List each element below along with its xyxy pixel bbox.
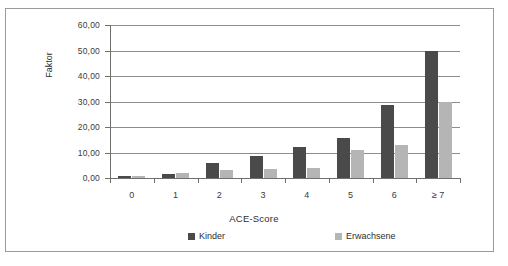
y-axis-tick xyxy=(105,178,111,179)
bar-erwachsene-3 xyxy=(264,169,277,178)
x-axis-tick-label: 5 xyxy=(331,190,371,200)
x-axis-tick xyxy=(285,178,286,183)
bar-erwachsene-2 xyxy=(220,170,233,178)
bar-kinder-3 xyxy=(250,156,263,178)
y-axis-tick-label: 0,00 xyxy=(52,173,100,183)
bar-erwachsene-7 xyxy=(439,102,452,179)
bar-kinder-4 xyxy=(293,147,306,178)
x-axis-tick xyxy=(373,178,374,183)
legend-label: Kinder xyxy=(199,231,225,241)
y-axis-tick-labels: 0,0010,0020,0030,0040,0050,0060,00 xyxy=(48,0,100,266)
x-axis-tick-label: 3 xyxy=(243,190,283,200)
y-axis-tick xyxy=(105,127,111,128)
y-axis-tick-label: 40,00 xyxy=(52,71,100,81)
legend-item-erwachsene: Erwachsene xyxy=(335,231,396,241)
legend-item-kinder: Kinder xyxy=(188,231,225,241)
legend-label: Erwachsene xyxy=(346,231,396,241)
bar-kinder-2 xyxy=(206,163,219,178)
x-axis-tick xyxy=(416,178,417,183)
legend-swatch-icon xyxy=(335,233,342,240)
x-axis-tick-label: 2 xyxy=(199,190,239,200)
y-axis-tick xyxy=(105,51,111,52)
bar-kinder-0 xyxy=(118,176,131,178)
bar-erwachsene-5 xyxy=(351,150,364,178)
y-axis-tick xyxy=(105,153,111,154)
y-axis-tick xyxy=(105,76,111,77)
y-axis-tick-label: 50,00 xyxy=(52,46,100,56)
bar-kinder-7 xyxy=(425,51,438,179)
legend-swatch-icon xyxy=(188,233,195,240)
y-axis-tick-label: 60,00 xyxy=(52,20,100,30)
x-axis-tick-label: 6 xyxy=(374,190,414,200)
figure-caption xyxy=(8,256,478,264)
bar-kinder-6 xyxy=(381,105,394,178)
x-axis-tick xyxy=(460,178,461,183)
y-axis-tick xyxy=(105,102,111,103)
x-axis-title: ACE-Score xyxy=(0,213,508,224)
bar-kinder-1 xyxy=(162,174,175,178)
bar-group xyxy=(110,25,460,178)
y-axis-tick-label: 10,00 xyxy=(52,148,100,158)
y-axis-tick-label: 20,00 xyxy=(52,122,100,132)
y-axis-tick-label: 30,00 xyxy=(52,97,100,107)
legend: KinderErwachsene xyxy=(0,231,508,245)
x-axis-tick xyxy=(154,178,155,183)
y-axis-tick xyxy=(105,25,111,26)
x-axis-tick-label: 0 xyxy=(112,190,152,200)
figure: 0,0010,0020,0030,0040,0050,0060,00 Fakto… xyxy=(0,0,508,266)
x-axis-tick xyxy=(329,178,330,183)
bar-erwachsene-1 xyxy=(176,173,189,178)
bar-erwachsene-4 xyxy=(307,168,320,178)
x-axis-tick-label: 4 xyxy=(287,190,327,200)
x-axis-tick xyxy=(198,178,199,183)
x-axis-tick-label: 1 xyxy=(156,190,196,200)
bar-erwachsene-6 xyxy=(395,145,408,178)
bar-kinder-5 xyxy=(337,138,350,178)
x-axis-tick xyxy=(241,178,242,183)
y-axis-title: Faktor xyxy=(44,30,54,100)
x-axis-tick-label: ≥ 7 xyxy=(418,190,458,200)
bar-erwachsene-0 xyxy=(132,176,145,178)
